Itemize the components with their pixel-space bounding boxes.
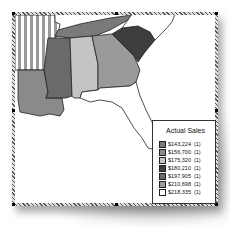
legend-label: $218,335 [168,189,191,195]
legend-label: $156,700 [168,149,191,155]
map-legend[interactable]: Actual Sales $143,224 (1) $156,700 (1) $… [152,120,216,204]
legend-count: (1) [194,157,201,163]
legend-item: $180,210 (1) [159,164,212,172]
legend-swatch [159,189,166,196]
legend-swatch [159,165,166,172]
legend-label: $180,210 [168,165,191,171]
legend-item: $218,335 (1) [159,188,212,196]
legend-label: $143,224 [168,141,191,147]
legend-label: $175,320 [168,157,191,163]
legend-swatch [159,173,166,180]
resize-handle-bottom-left[interactable] [12,203,15,206]
legend-count: (1) [194,181,201,187]
legend-swatch [159,141,166,148]
legend-title: Actual Sales [159,127,212,134]
legend-item: $197,905 (1) [159,172,212,180]
state-florida[interactable] [80,82,160,150]
legend-swatch [159,181,166,188]
legend-item: $143,224 (1) [159,140,212,148]
resize-handle-middle-right[interactable] [215,109,218,112]
legend-swatch [159,157,166,164]
legend-count: (1) [194,173,201,179]
legend-item: $210,698 (1) [159,180,212,188]
legend-count: (1) [194,149,201,155]
resize-handle-top-right[interactable] [215,12,218,15]
resize-handle-bottom-middle[interactable] [115,203,118,206]
legend-swatch [159,149,166,156]
legend-item: $175,320 (1) [159,156,212,164]
legend-label: $197,905 [168,173,191,179]
legend-count: (1) [194,165,201,171]
state-mississippi[interactable] [44,38,72,98]
legend-count: (1) [194,189,201,195]
legend-item: $156,700 (1) [159,148,212,156]
legend-count: (1) [194,141,201,147]
legend-label: $210,698 [168,181,191,187]
